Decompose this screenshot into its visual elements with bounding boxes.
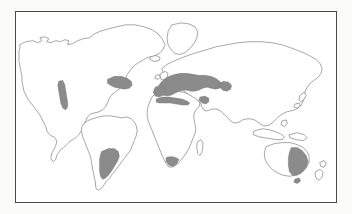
landmass-iceland bbox=[150, 56, 160, 62]
landmass-philippines bbox=[281, 120, 287, 127]
landmass-new-zealand-south bbox=[315, 169, 323, 180]
landmass-greenland bbox=[167, 23, 198, 55]
landmass-new-guinea bbox=[289, 133, 307, 141]
world-map bbox=[16, 12, 336, 202]
landmass-indonesia bbox=[254, 129, 285, 140]
figure-container bbox=[0, 0, 352, 214]
world-map-frame bbox=[15, 11, 337, 203]
landmass-ireland bbox=[155, 74, 160, 79]
landmass-new-zealand-north bbox=[320, 160, 326, 167]
landmass-madagascar bbox=[197, 140, 203, 156]
